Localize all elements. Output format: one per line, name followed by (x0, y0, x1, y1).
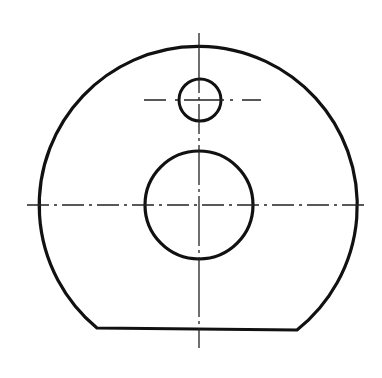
part-drawing (0, 0, 382, 378)
outer-profile (39, 46, 357, 330)
